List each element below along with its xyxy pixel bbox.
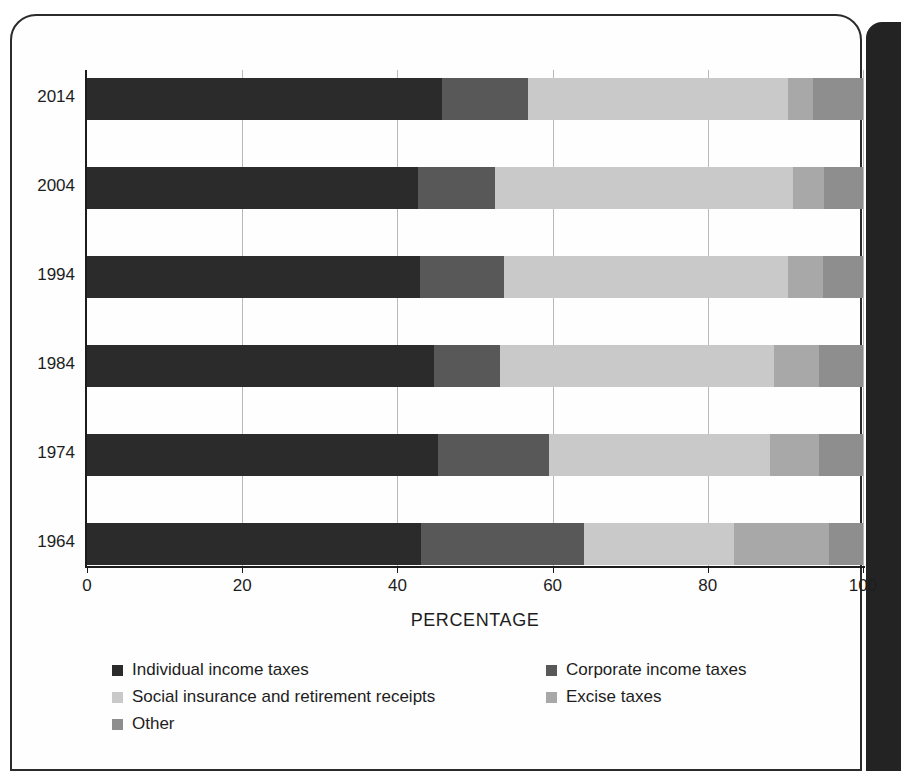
legend-label-other: Other [132, 714, 175, 734]
chart-plot-area: 020406080100 201420041994198419741964 PE… [87, 74, 863, 562]
legend-swatch-other-icon [112, 719, 123, 730]
y-axis-label-1964: 1964 [37, 532, 75, 552]
gridline-60 [553, 70, 554, 566]
x-tick-0 [87, 566, 88, 573]
legend-label-social: Social insurance and retirement receipts [132, 687, 435, 707]
legend-swatch-corporate-icon [546, 665, 557, 676]
chart-legend: Individual income taxes Corporate income… [112, 660, 812, 741]
bar-segment-excise-taxes-1964 [734, 523, 829, 565]
bar-segment-individual-income-taxes-1964 [87, 523, 421, 565]
legend-item-corporate-income-taxes[interactable]: Corporate income taxes [546, 660, 746, 680]
legend-item-excise-taxes[interactable]: Excise taxes [546, 687, 661, 707]
bar-segment-other-2004 [824, 167, 863, 209]
gridline-80 [708, 70, 709, 566]
bar-segment-corporate-income-taxes-1994 [420, 256, 505, 298]
bar-row-1964: 1964 [87, 523, 863, 565]
y-axis-label-2014: 2014 [37, 87, 75, 107]
bar-segment-excise-taxes-1974 [770, 434, 819, 476]
bar-segment-social-insurance-and-retirement-receipts-2004 [495, 167, 793, 209]
x-axis-line [85, 566, 865, 568]
bar-segment-other-1984 [819, 345, 863, 387]
bar-row-2004: 2004 [87, 167, 863, 209]
bar-segment-social-insurance-and-retirement-receipts-1964 [584, 523, 735, 565]
legend-item-individual-income-taxes[interactable]: Individual income taxes [112, 660, 309, 680]
bar-segment-social-insurance-and-retirement-receipts-2014 [528, 78, 788, 120]
gridline-40 [397, 70, 398, 566]
gridline-100 [863, 70, 864, 566]
bar-segment-excise-taxes-1984 [774, 345, 819, 387]
bar-segment-individual-income-taxes-2004 [87, 167, 418, 209]
legend-item-other[interactable]: Other [112, 714, 175, 734]
x-tick-label-20: 20 [233, 576, 252, 596]
legend-swatch-excise-icon [546, 692, 557, 703]
bar-segment-excise-taxes-1994 [788, 256, 824, 298]
x-tick-40 [397, 566, 398, 573]
bar-segment-excise-taxes-2014 [788, 78, 813, 120]
x-tick-20 [242, 566, 243, 573]
legend-item-social-insurance[interactable]: Social insurance and retirement receipts [112, 687, 435, 707]
x-tick-label-80: 80 [698, 576, 717, 596]
bar-segment-social-insurance-and-retirement-receipts-1994 [504, 256, 787, 298]
x-tick-100 [863, 566, 864, 573]
bar-segment-other-1974 [819, 434, 863, 476]
bar-segment-corporate-income-taxes-1984 [434, 345, 500, 387]
bar-row-1984: 1984 [87, 345, 863, 387]
legend-label-individual: Individual income taxes [132, 660, 309, 680]
bar-segment-individual-income-taxes-1994 [87, 256, 420, 298]
bar-segment-corporate-income-taxes-2014 [442, 78, 527, 120]
gridline-20 [242, 70, 243, 566]
x-tick-80 [708, 566, 709, 573]
legend-swatch-individual-icon [112, 665, 123, 676]
legend-row-1: Individual income taxes Corporate income… [112, 660, 812, 687]
y-axis-line [85, 70, 87, 566]
bar-segment-other-1994 [823, 256, 863, 298]
bar-segment-individual-income-taxes-2014 [87, 78, 442, 120]
legend-label-excise: Excise taxes [566, 687, 661, 707]
x-axis-title: PERCENTAGE [87, 610, 863, 631]
y-axis-label-1994: 1994 [37, 265, 75, 285]
x-tick-label-60: 60 [543, 576, 562, 596]
bar-segment-corporate-income-taxes-1974 [438, 434, 549, 476]
y-axis-label-1984: 1984 [37, 354, 75, 374]
bar-segment-excise-taxes-2004 [793, 167, 824, 209]
bar-segment-other-1964 [829, 523, 863, 565]
bar-segment-other-2014 [813, 78, 863, 120]
y-axis-label-1974: 1974 [37, 443, 75, 463]
bar-segment-corporate-income-taxes-2004 [418, 167, 496, 209]
bar-segment-individual-income-taxes-1984 [87, 345, 434, 387]
x-tick-60 [553, 566, 554, 573]
bar-segment-social-insurance-and-retirement-receipts-1974 [549, 434, 770, 476]
legend-label-corporate: Corporate income taxes [566, 660, 746, 680]
x-tick-label-0: 0 [82, 576, 91, 596]
x-tick-label-40: 40 [388, 576, 407, 596]
bar-segment-corporate-income-taxes-1964 [421, 523, 583, 565]
bar-segment-individual-income-taxes-1974 [87, 434, 438, 476]
bar-row-1994: 1994 [87, 256, 863, 298]
legend-row-2: Social insurance and retirement receipts… [112, 687, 812, 714]
legend-row-3: Other [112, 714, 812, 741]
bar-row-2014: 2014 [87, 78, 863, 120]
x-tick-label-100: 100 [849, 576, 877, 596]
y-axis-label-2004: 2004 [37, 176, 75, 196]
legend-swatch-social-icon [112, 692, 123, 703]
bar-row-1974: 1974 [87, 434, 863, 476]
bar-segment-social-insurance-and-retirement-receipts-1984 [500, 345, 774, 387]
right-dark-panel [866, 22, 901, 771]
